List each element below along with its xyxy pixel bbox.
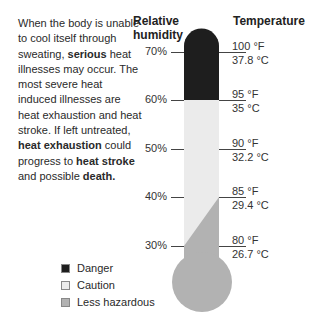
legend-item-danger: Danger: [61, 262, 113, 274]
thermometer-danger-zone: [184, 29, 219, 101]
humidity-tick-60: [171, 100, 184, 101]
humidity-label-30: 30%: [145, 239, 167, 251]
legend-item-caution: Caution: [61, 279, 115, 291]
temp-label-85f: 85 °F: [232, 185, 258, 198]
legend-label-less-hazardous: Less hazardous: [77, 296, 155, 308]
temp-label-90f: 90 °F: [232, 137, 258, 150]
temp-label-100f: 100 °F: [232, 40, 265, 53]
legend-swatch-caution: [61, 281, 70, 290]
temp-label-35c: 35 °C: [232, 102, 260, 115]
legend-label-danger: Danger: [77, 262, 113, 274]
legend-swatch-less-hazardous: [61, 298, 70, 307]
thermometer-bulb: [172, 252, 232, 312]
temp-label-32-2c: 32.2 °C: [232, 151, 269, 164]
legend-swatch-danger: [61, 264, 70, 273]
temp-label-37-8c: 37.8 °C: [232, 54, 269, 67]
temp-label-95f: 95 °F: [232, 88, 258, 101]
humidity-tick-40: [171, 197, 184, 198]
humidity-label-70: 70%: [145, 45, 167, 57]
humidity-tick-70: [171, 52, 184, 53]
legend-label-caution: Caution: [77, 279, 115, 291]
humidity-label-60: 60%: [145, 93, 167, 105]
humidity-label-40: 40%: [145, 190, 167, 202]
legend-item-less-hazardous: Less hazardous: [61, 296, 155, 308]
temp-label-80f: 80 °F: [232, 234, 258, 247]
humidity-tick-50: [171, 149, 184, 150]
humidity-tick-30: [171, 246, 184, 247]
temp-label-29-4c: 29.4 °C: [232, 199, 269, 212]
temp-label-26-7c: 26.7 °C: [232, 248, 269, 261]
humidity-label-50: 50%: [145, 142, 167, 154]
